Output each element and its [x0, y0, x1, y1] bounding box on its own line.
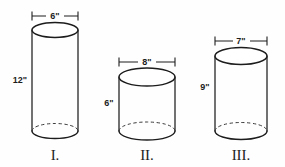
cylinder-1-height-label: 12"	[13, 75, 27, 85]
cylinder-3-bottom-hidden-arc	[215, 123, 267, 132]
cylinder-3-numeral: III.	[232, 147, 251, 163]
cylinder-1-top-ellipse	[32, 23, 78, 38]
cylinder-3-group: 7" 9" III.	[200, 36, 267, 163]
cylinder-2-bottom-front-arc	[119, 131, 175, 140]
cylinder-1-numeral: I.	[51, 147, 60, 163]
cylinder-diagram: 6" 12" I. 8"	[0, 0, 285, 167]
cylinder-1-group: 6" 12" I.	[13, 11, 78, 163]
cylinder-2-group: 8" 6" II.	[104, 57, 175, 163]
cylinder-2-height-label: 6"	[104, 98, 113, 108]
cylinder-3-diameter-label: 7"	[236, 36, 245, 46]
cylinder-3-diameter-dimension: 7"	[215, 36, 267, 46]
cylinder-3-bottom-front-arc	[215, 131, 267, 140]
cylinder-3-top-ellipse	[215, 48, 267, 65]
cylinder-2-numeral: II.	[140, 147, 154, 163]
cylinder-1-diameter-label: 6"	[50, 11, 59, 21]
cylinder-1-bottom-hidden-arc	[32, 124, 78, 132]
cylinder-2-diameter-dimension: 8"	[119, 57, 175, 67]
cylinder-2-bottom-hidden-arc	[119, 122, 175, 131]
cylinder-1-diameter-dimension: 6"	[32, 11, 78, 21]
cylinder-1-bottom-front-arc	[32, 131, 78, 139]
cylinder-2-top-ellipse	[119, 68, 175, 86]
cylinder-2-diameter-label: 8"	[142, 57, 151, 67]
cylinder-3-height-label: 9"	[200, 82, 209, 92]
cylinder-figure-canvas: 6" 12" I. 8"	[0, 0, 285, 167]
